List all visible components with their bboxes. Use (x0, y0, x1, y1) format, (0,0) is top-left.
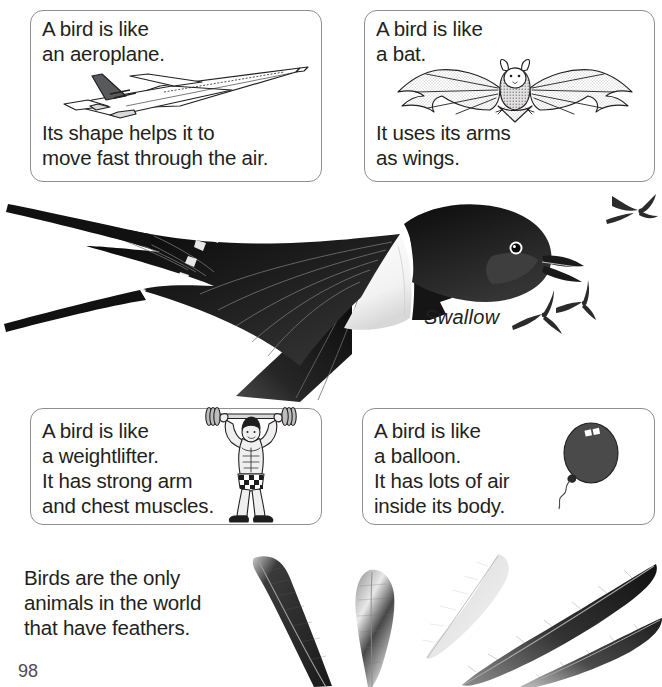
bat-illustration (386, 52, 644, 124)
aeroplane-illustration (52, 56, 310, 124)
balloon-illustration (545, 417, 625, 513)
feather-1 (253, 556, 332, 687)
weightlifter-illustration (198, 404, 304, 526)
book-page: A bird is like an aeroplane. (0, 0, 662, 687)
feather-3 (422, 554, 509, 659)
swallow-label: Swallow (424, 306, 499, 329)
swallow-illustration (0, 190, 662, 402)
fact-text-weightlifter: A bird is like a weightlifter. It has st… (42, 418, 214, 518)
feather-2 (356, 570, 395, 687)
page-number: 98 (18, 661, 38, 682)
fact-text-aeroplane-bottom: Its shape helps it to move fast through … (42, 120, 268, 170)
fact-text-balloon: A bird is like a balloon. It has lots of… (374, 418, 509, 518)
feathers-illustration (236, 540, 662, 687)
fact-text-bat-bottom: It uses its arms as wings. (376, 120, 511, 170)
feather-note-text: Birds are the only animals in the world … (24, 565, 201, 640)
